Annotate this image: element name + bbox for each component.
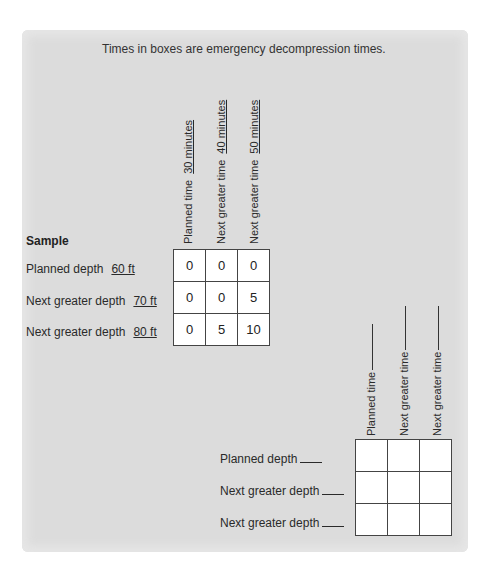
table-cell: 0 <box>174 314 206 346</box>
table-cell: 0 <box>174 282 206 314</box>
sample-column-label-1: Planned time30 minutes <box>182 120 194 244</box>
table-row <box>356 504 452 536</box>
sample-heading: Sample <box>26 234 69 248</box>
worksheet-column-label-3: Next greater time <box>431 306 443 436</box>
blank-line <box>322 493 344 495</box>
table-row <box>356 440 452 472</box>
table-cell[interactable] <box>356 504 388 536</box>
table-row: 0 5 10 <box>174 314 270 346</box>
sample-decompression-table: 0 0 0 0 0 5 0 5 10 <box>173 249 270 346</box>
table-cell: 10 <box>238 314 270 346</box>
table-cell: 5 <box>238 282 270 314</box>
sample-row-label-3: Next greater depth80 ft <box>26 325 157 339</box>
sample-row-label-1: Planned depth60 ft <box>26 262 135 276</box>
blank-line <box>371 324 373 370</box>
blank-line <box>437 306 439 350</box>
table-cell[interactable] <box>388 440 420 472</box>
table-cell[interactable] <box>420 504 452 536</box>
table-row <box>356 472 452 504</box>
sample-row-label-2: Next greater depth70 ft <box>26 294 157 308</box>
table-cell[interactable] <box>388 472 420 504</box>
worksheet-column-label-2: Next greater time <box>398 306 410 436</box>
worksheet-row-label-3: Next greater depth <box>220 516 344 530</box>
sample-column-label-2: Next greater time40 minutes <box>215 100 227 244</box>
table-row: 0 0 5 <box>174 282 270 314</box>
table-cell: 0 <box>206 282 238 314</box>
table-cell[interactable] <box>420 472 452 504</box>
blank-line <box>300 461 322 463</box>
table-cell[interactable] <box>388 504 420 536</box>
table-cell: 5 <box>206 314 238 346</box>
blank-line <box>322 525 344 527</box>
table-cell: 0 <box>174 250 206 282</box>
worksheet-column-label-1: Planned time <box>365 324 377 436</box>
blank-line <box>404 306 406 350</box>
table-cell: 0 <box>206 250 238 282</box>
sample-column-label-3: Next greater time50 minutes <box>248 100 260 244</box>
table-cell: 0 <box>238 250 270 282</box>
table-cell[interactable] <box>420 440 452 472</box>
table-row: 0 0 0 <box>174 250 270 282</box>
table-cell[interactable] <box>356 440 388 472</box>
instruction-text: Times in boxes are emergency decompressi… <box>102 42 386 56</box>
worksheet-decompression-table <box>355 439 452 536</box>
worksheet-row-label-2: Next greater depth <box>220 484 344 498</box>
table-cell[interactable] <box>356 472 388 504</box>
worksheet-row-label-1: Planned depth <box>220 452 322 466</box>
